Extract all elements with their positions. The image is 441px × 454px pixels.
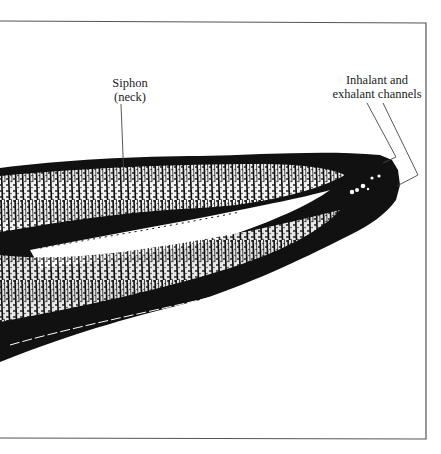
siphon-label: Siphon (neck) — [100, 76, 160, 104]
siphon-label-line-2: (neck) — [100, 90, 160, 104]
siphon-body — [0, 153, 400, 362]
siphon-illustration — [0, 0, 441, 454]
siphon-label-line-1: Siphon — [100, 76, 160, 90]
inhalant-leader-line — [367, 103, 396, 163]
channels-label-line-2: exhalant channels — [320, 87, 434, 101]
channels-label-line-1: Inhalant and — [320, 73, 434, 87]
channels-label: Inhalant and exhalant channels — [320, 73, 434, 101]
figure-canvas: Siphon (neck) Inhalant and exhalant chan… — [0, 0, 441, 454]
